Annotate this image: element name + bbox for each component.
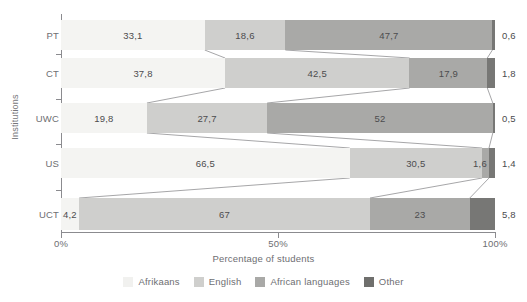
bar-segment-afrikaans: 37,8 [61, 58, 225, 88]
x-tick-label-0: 0% [54, 238, 68, 249]
bar-segment-african-languages: 17,9 [409, 58, 487, 88]
y-axis-tick [56, 54, 62, 55]
legend-swatch-icon [123, 277, 133, 287]
chart-legend: Afrikaans English African languages Othe… [0, 276, 527, 287]
bar-segment-other [489, 148, 495, 178]
chart-title-clipped [0, 0, 527, 7]
bar-segment-african-languages: 52 [267, 103, 493, 133]
segment-value: 19,8 [94, 113, 113, 124]
bar-segment-english: 30,5 [350, 148, 482, 178]
table-row: 4,2 67 23 [61, 198, 496, 230]
bar-segment-afrikaans: 19,8 [61, 103, 147, 133]
bar-segment-other [470, 198, 495, 230]
y-axis-tick [56, 99, 62, 100]
segment-value: 27,7 [197, 113, 216, 124]
table-row: 33,1 18,6 47,7 [61, 20, 496, 50]
legend-label: Other [379, 276, 404, 287]
outside-value-pt: 0,6 [502, 30, 516, 41]
category-label-us: US [11, 158, 59, 169]
outside-value-uct: 5,8 [502, 209, 516, 220]
bar-segment-english: 27,7 [147, 103, 267, 133]
legend-item-afrikaans: Afrikaans [123, 276, 179, 287]
bar-segment-african-languages: 47,7 [285, 20, 492, 50]
bar-segment-afrikaans: 66,5 [61, 148, 350, 178]
bar-segment-african-languages: 23 [370, 198, 470, 230]
y-axis-tick [56, 190, 62, 191]
legend-item-other: Other [364, 276, 404, 287]
legend-swatch-icon [255, 277, 265, 287]
legend-label: English [209, 276, 242, 287]
bar-segment-afrikaans: 33,1 [61, 20, 205, 50]
segment-value: 52 [374, 113, 385, 124]
x-tick-label-100: 100% [482, 238, 507, 249]
bar-segment-other [487, 58, 495, 88]
segment-value: 18,6 [235, 30, 254, 41]
bar-segment-other [493, 103, 495, 133]
chart-root: Institutions PT [0, 0, 527, 302]
category-label-uct: UCT [11, 209, 59, 220]
table-row: 37,8 42,5 17,9 [61, 58, 496, 88]
category-label-uwc: UWC [11, 113, 59, 124]
outside-value-uwc: 0,5 [502, 113, 516, 124]
segment-value: 30,5 [406, 158, 425, 169]
segment-value: 67 [219, 209, 230, 220]
bar-segment-afrikaans: 4,2 [61, 198, 79, 230]
bar-segment-other [492, 20, 495, 50]
legend-label: African languages [270, 276, 349, 287]
segment-value: 37,8 [133, 68, 152, 79]
bar-segment-english: 67 [79, 198, 370, 230]
category-label-pt: PT [11, 30, 59, 41]
outside-value-ct: 1,8 [502, 68, 516, 79]
outside-value-us: 1,4 [502, 158, 516, 169]
legend-label: Afrikaans [138, 276, 179, 287]
legend-swatch-icon [194, 277, 204, 287]
segment-value: 23 [414, 209, 425, 220]
segment-value: 4,2 [63, 209, 77, 220]
segment-value: 17,9 [439, 68, 458, 79]
x-axis-label: Percentage of students [0, 253, 527, 264]
bar-segment-english: 42,5 [225, 58, 409, 88]
segment-value: 42,5 [308, 68, 327, 79]
x-tick-label-50: 50% [268, 238, 288, 249]
legend-item-english: English [194, 276, 242, 287]
table-row: 19,8 27,7 52 [61, 103, 496, 133]
legend-item-african-languages: African languages [255, 276, 349, 287]
bar-segment-african-languages: 1,6 [482, 148, 489, 178]
bar-segment-english: 18,6 [205, 20, 286, 50]
category-label-ct: CT [11, 68, 59, 79]
legend-swatch-icon [364, 277, 374, 287]
segment-value: 1,6 [473, 158, 487, 169]
segment-value: 47,7 [379, 30, 398, 41]
segment-value: 33,1 [123, 30, 142, 41]
segment-value: 66,5 [196, 158, 215, 169]
table-row: 66,5 30,5 1,6 [61, 148, 496, 178]
y-axis-tick [56, 144, 62, 145]
